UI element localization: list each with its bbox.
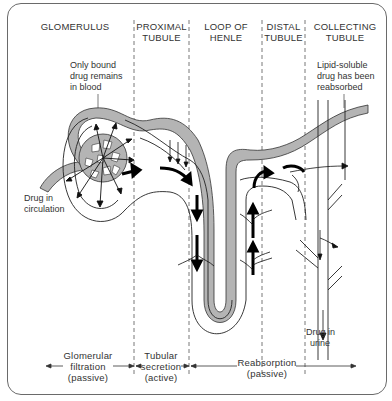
process-glomerular-filtration: Glomerular filtration (passive) — [63, 350, 113, 383]
section-title: DISTAL — [262, 21, 305, 32]
section-title: LOOP OF — [192, 21, 260, 32]
process-line: (active) — [138, 372, 184, 383]
section-label-loop-of-henle: LOOP OF HENLE — [192, 21, 260, 43]
process-reabsorption: Reabsorption (passive) — [236, 357, 298, 379]
annotation-drug-in-urine: Drug in urine — [306, 327, 335, 349]
process-line: secretion — [138, 361, 184, 372]
annotation-line: in blood — [70, 82, 123, 93]
section-label-glomerulus: GLOMERULUS — [30, 21, 120, 32]
section-label-distal-tubule: DISTAL TUBULE — [262, 21, 305, 43]
section-title: GLOMERULUS — [30, 21, 120, 32]
annotation-line: circulation — [24, 204, 65, 215]
section-subtitle: TUBULE — [305, 32, 385, 43]
process-line: Tubular — [138, 350, 184, 361]
process-line: (passive) — [63, 372, 113, 383]
section-label-collecting-tubule: COLLECTING TUBULE — [305, 21, 385, 43]
process-line: (passive) — [236, 368, 298, 379]
section-label-proximal-tubule: PROXIMAL TUBULE — [134, 21, 189, 43]
annotation-line: drug has been — [317, 71, 375, 82]
section-subtitle: HENLE — [192, 32, 260, 43]
annotation-line: Drug in — [306, 327, 335, 338]
section-subtitle: TUBULE — [134, 32, 189, 43]
process-tubular-secretion: Tubular secretion (active) — [138, 350, 184, 383]
section-title: COLLECTING — [305, 21, 385, 32]
annotation-line: urine — [306, 338, 335, 349]
annotation-bound-drug: Only bound drug remains in blood — [70, 60, 123, 93]
process-line: Reabsorption — [236, 357, 298, 368]
process-line: filtration — [63, 361, 113, 372]
section-title: PROXIMAL — [134, 21, 189, 32]
annotation-line: Only bound — [70, 60, 123, 71]
section-subtitle: TUBULE — [262, 32, 305, 43]
annotation-line: Drug in — [24, 193, 65, 204]
annotation-lipid-soluble: Lipid-soluble drug has been reabsorbed — [317, 60, 375, 93]
annotation-drug-in-circulation: Drug in circulation — [24, 193, 65, 215]
blood-vessel — [40, 105, 368, 323]
annotation-line: reabsorbed — [317, 82, 375, 93]
process-line: Glomerular — [63, 350, 113, 361]
transport-arrows — [168, 140, 348, 340]
leader-lines — [98, 94, 344, 108]
annotation-line: Lipid-soluble — [317, 60, 375, 71]
tubule-upper-wall — [125, 120, 232, 319]
annotation-line: drug remains — [70, 71, 123, 82]
